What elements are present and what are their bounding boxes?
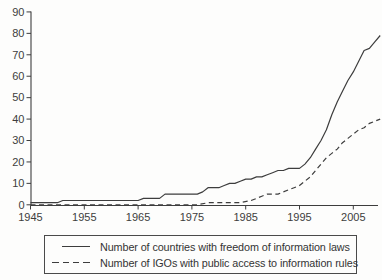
legend-label-countries: Number of countries with freedom of info… (100, 241, 350, 253)
x-tick-label: 1945 (18, 211, 42, 223)
x-tick-label: 1965 (126, 211, 150, 223)
y-tick-label: 10 (12, 177, 24, 189)
line-chart: 0102030405060708090194519551965197519851… (0, 0, 382, 235)
legend: Number of countries with freedom of info… (44, 235, 357, 274)
solid-line-sample (62, 246, 90, 248)
legend-item-igos: Number of IGOs with public access to inf… (52, 255, 352, 270)
x-tick-label: 2005 (341, 211, 365, 223)
series-line-solid (31, 36, 381, 203)
y-tick-label: 0 (18, 199, 24, 211)
legend-label-igos: Number of IGOs with public access to inf… (100, 257, 358, 269)
y-tick-label: 60 (12, 70, 24, 82)
foi-chart-figure: 0102030405060708090194519551965197519851… (0, 0, 382, 280)
x-tick-label: 1975 (180, 211, 204, 223)
legend-item-countries: Number of countries with freedom of info… (52, 239, 352, 254)
x-tick-label: 1985 (233, 211, 257, 223)
y-tick-label: 20 (12, 156, 24, 168)
y-tick-label: 90 (12, 6, 24, 18)
dashed-line-sample (52, 262, 90, 264)
y-tick-label: 30 (12, 134, 24, 146)
y-tick-label: 80 (12, 27, 24, 39)
x-tick-label: 1955 (72, 211, 96, 223)
y-tick-label: 70 (12, 49, 24, 61)
y-tick-label: 40 (12, 113, 24, 125)
series-line-dashed (31, 119, 381, 205)
x-tick-label: 1995 (287, 211, 311, 223)
y-tick-label: 50 (12, 91, 24, 103)
